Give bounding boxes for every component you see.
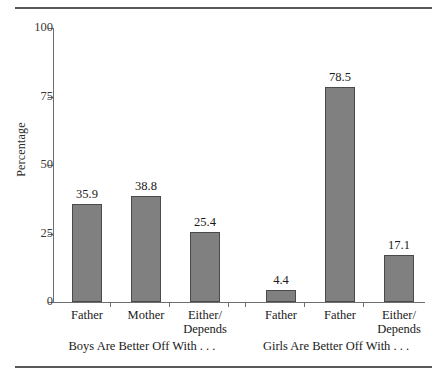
x-tick-mark-6 bbox=[363, 302, 364, 307]
group-caption-girls: Girls Are Better Off With . . . bbox=[241, 339, 431, 353]
bar-value-boys-either-depends: 25.4 bbox=[175, 216, 235, 229]
cat-label-line2: Depends bbox=[173, 322, 237, 336]
cat-label-boys-father: Father bbox=[57, 308, 117, 322]
bar-girls-either-depends bbox=[384, 255, 414, 302]
bar-value-girls-either-depends: 17.1 bbox=[369, 239, 429, 252]
bar-girls-father-2 bbox=[325, 87, 355, 302]
x-tick-mark-1 bbox=[110, 302, 111, 307]
y-tick-label-25: 25 bbox=[7, 227, 53, 240]
bar-boys-either-depends bbox=[190, 232, 220, 302]
plot-area: 100 75 50 25 0 Percentage 35.9 38.8 25.4 bbox=[0, 0, 447, 380]
y-axis-title: Percentage bbox=[14, 90, 29, 210]
cat-label-line2: Depends bbox=[367, 322, 431, 336]
y-tick-label-100: 100 bbox=[7, 21, 53, 34]
cat-label-boys-either-depends: Either/ Depends bbox=[173, 308, 237, 336]
cat-label-girls-father-2: Father bbox=[310, 308, 370, 322]
bar-boys-mother bbox=[131, 196, 161, 302]
x-tick-mark-2 bbox=[169, 302, 170, 307]
cat-label-line1: Mother bbox=[128, 308, 165, 322]
chart-figure: 100 75 50 25 0 Percentage 35.9 38.8 25.4 bbox=[0, 0, 447, 380]
cat-label-line1: Either/ bbox=[382, 308, 416, 322]
bar-value-boys-father: 35.9 bbox=[57, 188, 117, 201]
x-axis-line bbox=[53, 302, 425, 303]
cat-label-line1: Father bbox=[324, 308, 356, 322]
cat-label-girls-either-depends: Either/ Depends bbox=[367, 308, 431, 336]
cat-label-girls-father-1: Father bbox=[251, 308, 311, 322]
y-tick-label-0: 0 bbox=[7, 295, 53, 308]
y-axis-line bbox=[53, 28, 54, 302]
cat-label-line1: Either/ bbox=[188, 308, 222, 322]
bar-value-boys-mother: 38.8 bbox=[116, 180, 176, 193]
bar-value-girls-father-1: 4.4 bbox=[251, 274, 311, 287]
bar-boys-father bbox=[72, 204, 102, 302]
x-tick-mark-5 bbox=[304, 302, 305, 307]
bar-value-girls-father-2: 78.5 bbox=[310, 71, 370, 84]
cat-label-line1: Father bbox=[71, 308, 103, 322]
group-caption-boys: Boys Are Better Off With . . . bbox=[47, 339, 237, 353]
x-tick-mark-3 bbox=[228, 302, 229, 307]
cat-label-line1: Father bbox=[265, 308, 297, 322]
bar-girls-father-1 bbox=[266, 290, 296, 302]
cat-label-boys-mother: Mother bbox=[116, 308, 176, 322]
x-tick-mark-4 bbox=[245, 302, 246, 307]
